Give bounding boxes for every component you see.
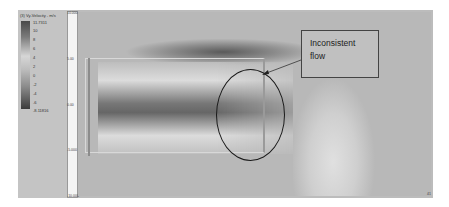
callout-arrow-icon [18, 10, 433, 198]
contour-plot-frame: (3) Vy-Velocity - m/s 11.7311 10 8 6 4 2… [18, 10, 433, 198]
corner-label: 41 [427, 192, 431, 196]
